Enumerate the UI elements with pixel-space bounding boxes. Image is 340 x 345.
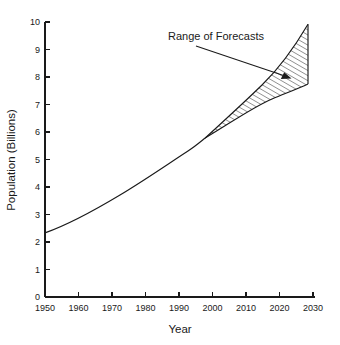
- annotation-leader-line: [196, 46, 285, 76]
- y-tick-label-7: 7: [35, 100, 40, 110]
- x-axis: 1950 1960 1970 1980 1990 2000 2010 2020 …: [35, 292, 323, 335]
- x-tick-label-1980: 1980: [135, 303, 155, 313]
- y-axis-title: Population (Billions): [5, 109, 17, 211]
- annotation-label: Range of Forecasts: [168, 30, 264, 42]
- x-tick-label-1970: 1970: [102, 303, 122, 313]
- y-tick-label-8: 8: [35, 72, 40, 82]
- y-tick-label-10: 10: [30, 17, 40, 27]
- population-forecast-chart: 0 1 2 3 4 5 6 7 8 9 10 Population (Billi…: [0, 0, 340, 345]
- y-tick-label-2: 2: [35, 237, 40, 247]
- y-tick-label-5: 5: [35, 155, 40, 165]
- y-axis: 0 1 2 3 4 5 6 7 8 9 10 Population (Billi…: [5, 17, 50, 302]
- x-tick-label-1950: 1950: [35, 303, 55, 313]
- y-tick-label-9: 9: [35, 45, 40, 55]
- y-tick-label-3: 3: [35, 210, 40, 220]
- x-tick-label-1960: 1960: [68, 303, 88, 313]
- x-tick-label-2030: 2030: [303, 303, 323, 313]
- historical-population-curve: [45, 138, 205, 233]
- chart-figure: 0 1 2 3 4 5 6 7 8 9 10 Population (Billi…: [0, 0, 340, 345]
- x-tick-label-1990: 1990: [169, 303, 189, 313]
- y-tick-label-0: 0: [35, 292, 40, 302]
- x-axis-title: Year: [168, 323, 191, 335]
- y-tick-label-6: 6: [35, 127, 40, 137]
- forecast-range-annotation: Range of Forecasts: [168, 30, 292, 79]
- y-tick-label-4: 4: [35, 182, 40, 192]
- x-tick-label-2010: 2010: [236, 303, 256, 313]
- x-tick-label-2000: 2000: [202, 303, 222, 313]
- x-tick-label-2020: 2020: [269, 303, 289, 313]
- y-tick-label-1: 1: [35, 265, 40, 275]
